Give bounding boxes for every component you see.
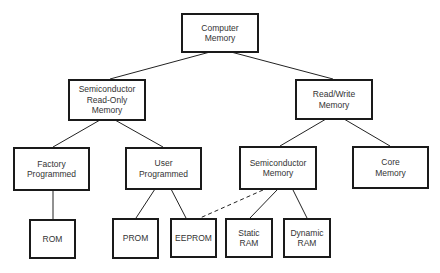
node-semiconductor-rom: Semiconductor Read-Only Memory xyxy=(68,79,146,121)
node-label: Computer Memory xyxy=(201,23,238,44)
edge-user-to-prom xyxy=(136,189,155,218)
edge-readwrite-to-semimem xyxy=(280,119,326,146)
node-prom: PROM xyxy=(112,218,159,259)
node-label: Static RAM xyxy=(238,228,259,249)
edge-readwrite-to-core xyxy=(344,119,390,146)
edge-user-to-eeprom xyxy=(171,189,186,218)
node-factory-programmed: Factory Programmed xyxy=(13,147,90,191)
node-label: Core Memory xyxy=(375,157,406,178)
node-label: ROM xyxy=(43,234,63,245)
edge-semirom-to-user xyxy=(115,120,163,147)
node-read-write-memory: Read/Write Memory xyxy=(295,79,373,120)
memory-hierarchy-diagram: Computer Memory Semiconductor Read-Only … xyxy=(0,0,440,273)
node-label: Semiconductor Read-Only Memory xyxy=(79,84,136,116)
node-label: PROM xyxy=(123,233,149,244)
node-user-programmed: User Programmed xyxy=(125,147,202,190)
node-dynamic-ram: Dynamic RAM xyxy=(283,218,331,258)
node-label: User Programmed xyxy=(139,158,188,179)
edge-semimem-to-dynamicram xyxy=(293,190,307,218)
node-label: Factory Programmed xyxy=(27,159,76,180)
edge-computer-to-semirom xyxy=(110,52,210,79)
node-computer-memory: Computer Memory xyxy=(181,13,259,53)
node-label: EEPROM xyxy=(175,233,212,244)
node-rom: ROM xyxy=(29,219,76,259)
node-label: Semiconductor Memory xyxy=(250,158,307,179)
edge-computer-to-readwrite xyxy=(231,52,333,79)
edge-semirom-to-factory xyxy=(53,120,100,147)
node-semiconductor-memory: Semiconductor Memory xyxy=(239,146,317,190)
node-eeprom: EEPROM xyxy=(170,218,217,258)
node-core-memory: Core Memory xyxy=(352,146,429,189)
node-static-ram: Static RAM xyxy=(225,218,273,258)
node-label: Dynamic RAM xyxy=(290,228,323,249)
node-label: Read/Write Memory xyxy=(313,89,355,110)
